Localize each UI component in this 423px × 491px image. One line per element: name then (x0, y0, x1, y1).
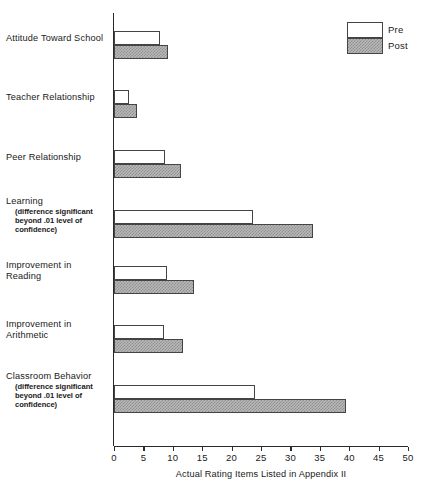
legend-swatch-post-icon (347, 38, 383, 54)
x-tick-label: 20 (220, 452, 244, 463)
bar-pre-classroom-behavior (114, 385, 255, 399)
category-label-text: Attitude Toward School (6, 33, 111, 44)
category-label-peer-relationship: Peer Relationship (6, 152, 111, 163)
legend-label-pre: Pre (388, 24, 403, 35)
bar-pre-improvement-in-reading (114, 266, 167, 280)
x-tick (290, 447, 291, 451)
category-note-line: (difference significant (6, 382, 111, 391)
bar-pre-teacher-relationship (114, 90, 129, 104)
x-tick-label: 30 (278, 452, 302, 463)
x-tick-label: 35 (308, 452, 332, 463)
legend-item-post: Post (347, 38, 417, 54)
bar-post-learning (114, 224, 313, 238)
category-label-text: Improvement in (6, 260, 111, 271)
x-tick-label: 45 (367, 452, 391, 463)
bar-post-improvement-in-arithmetic (114, 339, 183, 353)
bar-post-attitude-toward-school (114, 45, 168, 59)
category-label-improvement-in-arithmetic: Improvement inArithmetic (6, 319, 111, 341)
bar-group-peer-relationship (114, 150, 408, 178)
x-tick (232, 447, 233, 451)
category-note-line: (difference significant (6, 207, 111, 216)
legend: Pre Post (347, 22, 417, 54)
category-label-text-line2: Reading (6, 271, 111, 282)
x-tick-label: 5 (131, 452, 155, 463)
category-note-line: confidence) (6, 225, 111, 234)
x-tick (261, 447, 262, 451)
x-tick (408, 447, 409, 451)
bar-group-learning (114, 210, 408, 238)
bar-post-improvement-in-reading (114, 280, 194, 294)
x-tick (173, 447, 174, 451)
legend-label-post: Post (388, 40, 408, 51)
category-note-line: beyond .01 level of (6, 391, 111, 400)
bar-group-classroom-behavior (114, 385, 408, 413)
bar-group-improvement-in-arithmetic (114, 325, 408, 353)
category-label-classroom-behavior: Classroom Behavior(difference significan… (6, 371, 111, 410)
x-tick (349, 447, 350, 451)
category-label-text: Improvement in (6, 319, 111, 330)
bar-post-peer-relationship (114, 164, 181, 178)
category-label-improvement-in-reading: Improvement inReading (6, 260, 111, 282)
category-note-line: confidence) (6, 400, 111, 409)
category-label-teacher-relationship: Teacher Relationship (6, 92, 111, 103)
x-tick (320, 447, 321, 451)
legend-swatch-pre-icon (347, 22, 383, 38)
bar-pre-improvement-in-arithmetic (114, 325, 164, 339)
x-tick-label: 25 (249, 452, 273, 463)
bar-pre-learning (114, 210, 253, 224)
bar-post-teacher-relationship (114, 104, 137, 118)
bar-chart: Attitude Toward SchoolTeacher Relationsh… (0, 0, 423, 491)
category-label-text-line2: Arithmetic (6, 330, 111, 341)
x-tick (143, 447, 144, 451)
bar-pre-peer-relationship (114, 150, 165, 164)
x-tick (114, 447, 115, 451)
legend-item-pre: Pre (347, 22, 417, 38)
category-label-learning: Learning(difference significantbeyond .0… (6, 196, 111, 235)
category-label-text: Learning (6, 196, 111, 207)
x-tick-label: 0 (102, 452, 126, 463)
bar-post-classroom-behavior (114, 399, 346, 413)
bar-group-improvement-in-reading (114, 266, 408, 294)
x-tick-label: 15 (190, 452, 214, 463)
x-tick (379, 447, 380, 451)
bar-group-teacher-relationship (114, 90, 408, 118)
plot-area (114, 13, 408, 446)
x-tick-label: 10 (161, 452, 185, 463)
category-note-line: beyond .01 level of (6, 216, 111, 225)
category-label-text: Peer Relationship (6, 152, 111, 163)
bar-pre-attitude-toward-school (114, 31, 160, 45)
category-label-text: Classroom Behavior (6, 371, 111, 382)
x-axis-title: Actual Rating Items Listed in Appendix I… (114, 469, 408, 479)
category-label-text: Teacher Relationship (6, 92, 111, 103)
category-label-attitude-toward-school: Attitude Toward School (6, 33, 111, 44)
x-tick-label: 40 (337, 452, 361, 463)
x-tick (202, 447, 203, 451)
x-tick-label: 50 (396, 452, 420, 463)
